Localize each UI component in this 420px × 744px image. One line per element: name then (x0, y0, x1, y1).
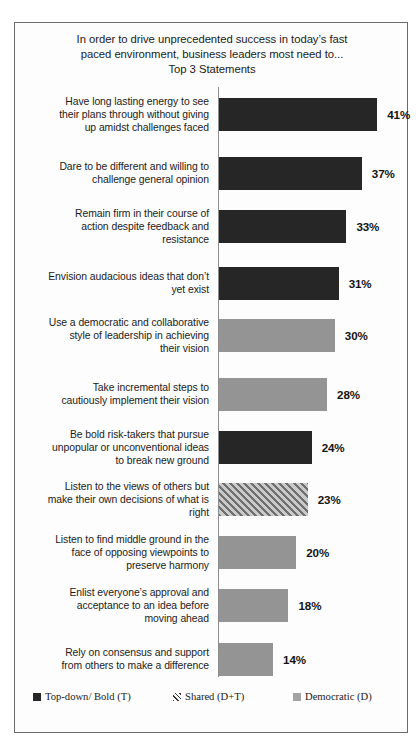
bar-category-label-line-1: Enlist everyone’s approval and (19, 586, 209, 599)
legend-item-dt[interactable]: Shared (D+T) (173, 691, 244, 702)
bar-value-label: 31% (349, 277, 372, 290)
chart-title-line-1: In order to drive unprecedented success … (25, 32, 399, 47)
bar-category-label-line-1: Remain firm in their course of (19, 207, 209, 220)
bar-category-label-line-3: moving ahead (19, 612, 209, 625)
bar-row: Enlist everyone’s approval andacceptance… (15, 589, 409, 622)
bar-category-label-line-3: preserve harmony (19, 559, 209, 572)
bar-d[interactable] (219, 378, 327, 411)
bar-category-label-line-3: up amidst challenges faced (19, 121, 209, 134)
bar-category-label-line-1: Use a democratic and collaborative (19, 316, 209, 329)
legend-item-d[interactable]: Democratic (D) (293, 691, 372, 702)
bar-category-label: Use a democratic and collaborativestyle … (19, 316, 209, 355)
bar-category-label-line-3: to break new ground (19, 454, 209, 467)
bar-d[interactable] (219, 319, 335, 352)
bar-t[interactable] (219, 210, 346, 243)
bar-category-label: Rely on consensus and supportfrom others… (19, 646, 209, 672)
bar-row: Use a democratic and collaborativestyle … (15, 319, 409, 352)
bar-value-label: 37% (372, 167, 395, 180)
legend-label: Shared (D+T) (185, 691, 244, 702)
bar-category-label-line-2: acceptance to an idea before (19, 599, 209, 612)
bar-category-label-line-2: face of opposing viewpoints to (19, 546, 209, 559)
bar-d[interactable] (219, 536, 296, 569)
bar-category-label-line-3: their vision (19, 342, 209, 355)
bar-category-label: Remain firm in their course ofaction des… (19, 207, 209, 246)
bar-category-label-line-3: resistance (19, 233, 209, 246)
bar-category-label-line-2: from others to make a difference (19, 659, 209, 672)
bar-category-label: Envision audacious ideas that don’tyet e… (19, 270, 209, 296)
bar-dt[interactable] (219, 483, 308, 516)
bar-category-label: Take incremental steps tocautiously impl… (19, 381, 209, 407)
bar-category-label-line-3: right (19, 506, 209, 519)
bar-category-label: Listen to the views of others butmake th… (19, 480, 209, 519)
bar-t[interactable] (219, 157, 362, 190)
chart-legend: Top-down/ Bold (T)Shared (D+T)Democratic… (15, 687, 409, 711)
legend-label: Top-down/ Bold (T) (45, 691, 131, 702)
bar-t[interactable] (219, 267, 339, 300)
bar-row: Remain firm in their course ofaction des… (15, 210, 409, 243)
bar-row: Listen to find middle ground in theface … (15, 536, 409, 569)
chart-title-line-3: Top 3 Statements (25, 62, 399, 77)
bar-category-label: Have long lasting energy to seetheir pla… (19, 95, 209, 134)
chart-title-line-2: paced environment, business leaders most… (25, 47, 399, 62)
bar-row: Dare to be different and willing tochall… (15, 157, 409, 190)
bar-category-label: Be bold risk-takers that pursueunpopular… (19, 428, 209, 467)
bar-row: Listen to the views of others butmake th… (15, 483, 409, 516)
bar-category-label-line-2: action despite feedback and (19, 220, 209, 233)
plot-area: Have long lasting energy to seetheir pla… (15, 87, 409, 677)
bar-category-label-line-1: Envision audacious ideas that don’t (19, 270, 209, 283)
bar-value-label: 14% (283, 653, 306, 666)
bar-value-label: 33% (356, 220, 379, 233)
bar-category-label-line-1: Take incremental steps to (19, 381, 209, 394)
legend-item-t[interactable]: Top-down/ Bold (T) (33, 691, 131, 702)
chart-frame: In order to drive unprecedented success … (14, 22, 408, 733)
bar-value-label: 23% (318, 493, 341, 506)
chart-title: In order to drive unprecedented success … (25, 32, 399, 78)
bar-category-label-line-2: style of leadership in achieving (19, 329, 209, 342)
bar-category-label: Listen to find middle ground in theface … (19, 533, 209, 572)
bar-value-label: 41% (387, 108, 410, 121)
bar-value-label: 20% (306, 546, 329, 559)
bar-row: Rely on consensus and supportfrom others… (15, 643, 409, 676)
bar-d[interactable] (219, 643, 273, 676)
bar-category-label-line-2: unpopular or unconventional ideas (19, 441, 209, 454)
bar-category-label-line-1: Have long lasting energy to see (19, 95, 209, 108)
bar-d[interactable] (219, 589, 288, 622)
bar-t[interactable] (219, 431, 312, 464)
bar-category-label-line-2: make their own decisions of what is (19, 493, 209, 506)
bar-value-label: 30% (345, 329, 368, 342)
bar-category-label-line-2: challenge general opinion (19, 173, 209, 186)
legend-swatch-d-icon (293, 693, 301, 701)
bar-value-label: 24% (322, 441, 345, 454)
bar-row: Take incremental steps tocautiously impl… (15, 378, 409, 411)
legend-swatch-t-icon (33, 693, 41, 701)
bar-row: Envision audacious ideas that don’tyet e… (15, 267, 409, 300)
legend-swatch-dt-icon (173, 693, 181, 701)
bar-category-label-line-1: Listen to find middle ground in the (19, 533, 209, 546)
bar-category-label-line-2: cautiously implement their vision (19, 394, 209, 407)
bar-category-label: Dare to be different and willing tochall… (19, 160, 209, 186)
bar-t[interactable] (219, 98, 377, 131)
bar-category-label: Enlist everyone’s approval andacceptance… (19, 586, 209, 625)
bar-row: Have long lasting energy to seetheir pla… (15, 98, 409, 131)
bar-category-label-line-2: their plans through without giving (19, 108, 209, 121)
bar-category-label-line-2: yet exist (19, 283, 209, 296)
bar-category-label-line-1: Dare to be different and willing to (19, 160, 209, 173)
bar-value-label: 18% (298, 599, 321, 612)
legend-label: Democratic (D) (305, 691, 372, 702)
bar-category-label-line-1: Listen to the views of others but (19, 480, 209, 493)
bar-row: Be bold risk-takers that pursueunpopular… (15, 431, 409, 464)
bar-category-label-line-1: Be bold risk-takers that pursue (19, 428, 209, 441)
bar-category-label-line-1: Rely on consensus and support (19, 646, 209, 659)
bar-value-label: 28% (337, 388, 360, 401)
